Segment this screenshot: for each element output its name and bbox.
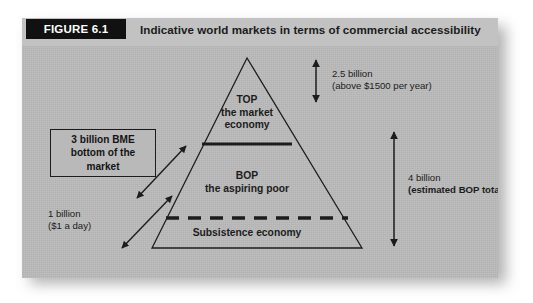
bme-callout-text: 3 billion BME bottom of the market xyxy=(71,133,135,172)
top-segment-line3: economy xyxy=(187,119,307,132)
subsistence-measure-value: 1 billion xyxy=(48,208,91,220)
top-measure-annotation: 2.5 billion (above $1500 per year) xyxy=(332,68,432,91)
bop-measure-detail: (estimated BOP total) xyxy=(408,184,498,196)
bop-segment-title: BOP xyxy=(177,170,317,183)
pyramid-top-segment-label: TOP the market economy xyxy=(187,94,307,132)
diagram-canvas: TOP the market economy BOP the aspiring … xyxy=(22,46,498,278)
subsistence-measure-annotation: 1 billion ($1 a day) xyxy=(48,208,91,231)
subsistence-segment-title: Subsistence economy xyxy=(177,227,317,240)
top-measure-detail: (above $1500 per year) xyxy=(332,80,432,92)
bme-callout-line1: 3 billion BME xyxy=(71,133,135,146)
top-segment-line2: the market xyxy=(187,107,307,120)
figure-number-tag: FIGURE 6.1 xyxy=(26,19,126,39)
subsistence-measure-detail: ($1 a day) xyxy=(48,220,91,232)
figure-panel: FIGURE 6.1 Indicative world markets in t… xyxy=(22,18,498,278)
pyramid-bop-segment-label: BOP the aspiring poor xyxy=(177,170,317,195)
figure-header-band: FIGURE 6.1 Indicative world markets in t… xyxy=(22,18,498,46)
bme-callout-line3: market xyxy=(71,160,135,173)
bme-callout-box: 3 billion BME bottom of the market xyxy=(50,129,156,177)
bop-measure-annotation: 4 billion (estimated BOP total) xyxy=(408,172,498,195)
figure-root: FIGURE 6.1 Indicative world markets in t… xyxy=(0,0,533,303)
top-measure-value: 2.5 billion xyxy=(332,68,432,80)
bme-callout-line2: bottom of the xyxy=(71,146,135,159)
figure-caption: Indicative world markets in terms of com… xyxy=(140,20,481,39)
pyramid-subsistence-segment-label: Subsistence economy xyxy=(177,227,317,240)
bop-measure-value: 4 billion xyxy=(408,172,498,184)
top-segment-title: TOP xyxy=(187,94,307,107)
bop-segment-line2: the aspiring poor xyxy=(177,183,317,196)
